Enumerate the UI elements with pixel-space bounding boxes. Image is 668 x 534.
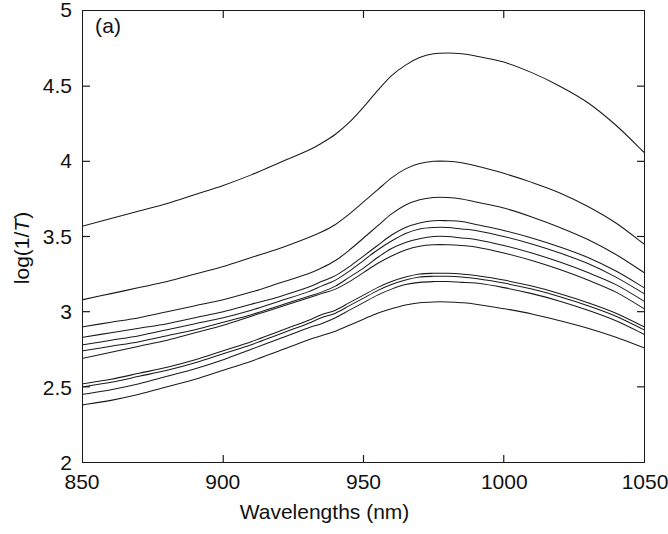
x-axis-title-text: Wavelengths (nm) [240,500,410,524]
curve-spectrum-1 [83,53,644,226]
y-tick-label-3: 3 [60,300,72,324]
panel-label: (a) [95,14,121,38]
plot-area [82,10,645,463]
curve-spectrum-9 [83,276,644,387]
y-tick-label-4.5: 4.5 [43,74,72,98]
y-axis-title: log(1/T) [10,168,34,328]
y-tick-label-3.5: 3.5 [43,225,72,249]
curve-spectrum-2 [83,161,644,300]
x-axis-title: Wavelengths (nm) [0,500,667,524]
curve-spectrum-5 [83,227,644,344]
curve-spectrum-11 [83,302,644,405]
x-tick-label-950: 950 [346,470,381,494]
y-tick-label-4: 4 [60,149,72,173]
y-tick-label-2.5: 2.5 [43,376,72,400]
x-tick-label-850: 850 [64,470,99,494]
curve-spectrum-8 [83,273,644,384]
x-tick-label-900: 900 [205,470,240,494]
x-axis-tick-labels: 85090095010001050 [0,470,667,500]
spectra-curves [83,11,644,462]
x-tick-label-1000: 1000 [481,470,528,494]
y-tick-label-5: 5 [60,0,72,22]
x-tick-label-1050: 1050 [622,470,668,494]
